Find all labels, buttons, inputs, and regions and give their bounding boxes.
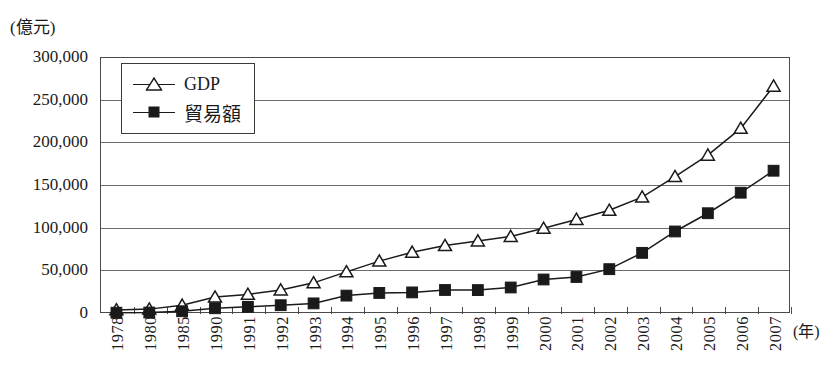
x-tickmark (660, 307, 661, 314)
x-axis-tick-labels: 1978198019851990199119921993199419951996… (100, 316, 790, 376)
x-tick-label: 1993 (306, 316, 326, 351)
x-tick-label: 2006 (733, 316, 753, 351)
y-axis-unit-label: (億元) (10, 13, 55, 38)
x-tickmark (462, 307, 463, 314)
x-tick-label: 1990 (207, 316, 227, 351)
x-tickmark (298, 307, 299, 314)
x-tickmark (232, 307, 233, 314)
legend-marker-hollow-triangle-icon (133, 74, 175, 94)
x-tick-label: 2000 (536, 316, 556, 351)
x-tickmark (134, 307, 135, 314)
x-tick-label: 1980 (141, 316, 161, 351)
y-tick-label: 0 (80, 303, 89, 323)
x-tick-label: 1996 (404, 316, 424, 351)
y-tick-label: 100,000 (33, 218, 88, 238)
x-tick-label: 2002 (601, 316, 621, 351)
gridline (101, 185, 789, 186)
x-tick-label: 2003 (634, 316, 654, 351)
x-tickmark (692, 307, 693, 314)
x-tick-label: 1985 (174, 316, 194, 351)
legend-label-gdp: GDP (184, 74, 220, 95)
gridline (101, 228, 789, 229)
legend-item-trade: 貿易額 (133, 98, 241, 126)
x-tick-label: 1992 (273, 316, 293, 351)
gridline (101, 142, 789, 143)
x-tickmark (331, 307, 332, 314)
x-tick-label: 2001 (568, 316, 588, 351)
x-tick-label: 1999 (503, 316, 523, 351)
x-tick-label: 2004 (667, 316, 687, 351)
x-tickmark (561, 307, 562, 314)
x-tickmark (364, 307, 365, 314)
legend-item-gdp: GDP (133, 70, 241, 98)
gridline (101, 270, 789, 271)
x-tickmark (791, 307, 792, 314)
x-tickmark (397, 307, 398, 314)
x-tickmark (265, 307, 266, 314)
y-axis-tick-labels: 050,000100,000150,000200,000250,000300,0… (0, 57, 94, 313)
x-tick-label: 2007 (766, 316, 786, 351)
chart-legend: GDP 貿易額 (121, 63, 255, 134)
x-tickmark (495, 307, 496, 314)
x-tick-label: 1995 (371, 316, 391, 351)
legend-label-trade: 貿易額 (184, 99, 241, 126)
y-tick-label: 300,000 (33, 47, 88, 67)
x-tickmark (528, 307, 529, 314)
x-tick-label: 1994 (338, 316, 358, 351)
x-tickmark (430, 307, 431, 314)
x-tick-label: 2005 (700, 316, 720, 351)
x-tickmark (594, 307, 595, 314)
chart-figure: (億元) 050,000100,000150,000200,000250,000… (0, 0, 834, 391)
x-tick-label: 1978 (108, 316, 128, 351)
y-tick-label: 50,000 (41, 260, 88, 280)
x-axis-unit-label: (年) (793, 318, 820, 342)
x-tick-label: 1997 (437, 316, 457, 351)
x-tick-label: 1991 (240, 316, 260, 351)
legend-marker-filled-square-icon (133, 102, 175, 122)
x-tickmark (167, 307, 168, 314)
x-tickmark (200, 307, 201, 314)
x-tickmark (758, 307, 759, 314)
y-tick-label: 150,000 (33, 175, 88, 195)
x-tickmark (725, 307, 726, 314)
y-tick-label: 200,000 (33, 132, 88, 152)
x-tickmark (627, 307, 628, 314)
y-tick-label: 250,000 (33, 90, 88, 110)
x-tick-label: 1998 (470, 316, 490, 351)
